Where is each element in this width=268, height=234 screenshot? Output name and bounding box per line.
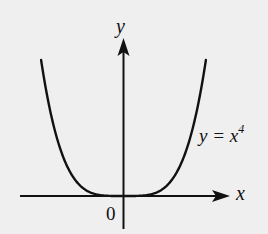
curve-equation-label: y = x4 [199, 126, 244, 145]
equation-text: y = x [199, 125, 238, 146]
y-axis-label: y [116, 16, 125, 36]
origin-label: 0 [106, 204, 116, 223]
plot-area [0, 0, 268, 234]
x-axis-label: x [236, 183, 245, 203]
equation-exponent: 4 [238, 122, 244, 136]
